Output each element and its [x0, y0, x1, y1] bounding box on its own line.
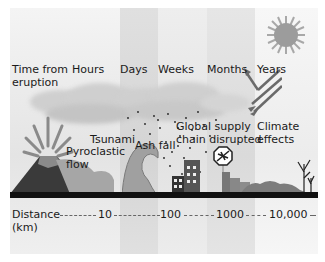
- distance-dash: [246, 215, 266, 216]
- impact-ash-fall: Ash fall: [135, 139, 175, 152]
- time-axis-label: Time from eruption: [12, 63, 68, 89]
- impact-supply-chain: Global supply chain disrupted: [176, 120, 262, 146]
- distance-dash: [60, 215, 96, 216]
- time-label-days: Days: [120, 63, 147, 76]
- impact-tsunami: Tsunami: [90, 133, 135, 146]
- time-label-years: Years: [257, 63, 286, 76]
- time-label-weeks: Weeks: [158, 63, 194, 76]
- eruption-impact-diagram: Time from eruption Hours Days Weeks Mont…: [10, 8, 318, 254]
- distance-axis-label: Distance (km): [12, 208, 60, 234]
- distance-dash: [184, 215, 214, 216]
- dead-tree-icon: [296, 156, 316, 194]
- distance-label-10: 10: [98, 208, 112, 221]
- distance-label-10000: 10,000: [269, 208, 308, 221]
- distance-dash: [310, 215, 316, 216]
- ground-line: [10, 192, 318, 198]
- sun-icon: [265, 14, 307, 56]
- time-label-months: Months: [207, 63, 247, 76]
- distance-dash: [114, 215, 160, 216]
- distance-label-100: 100: [160, 208, 181, 221]
- impact-climate-effects: Climate effects: [257, 120, 299, 146]
- distance-label-1000: 1000: [216, 208, 244, 221]
- city-icon: [170, 158, 212, 194]
- impact-pyroclastic-flow: Pyroclastic flow: [66, 145, 125, 171]
- time-label-hours: Hours: [72, 63, 104, 76]
